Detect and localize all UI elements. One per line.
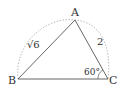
vertex-a-label: A [70, 6, 80, 19]
side-ab-label: √6 [27, 39, 40, 50]
vertex-c-label: C [109, 74, 117, 87]
side-ac-label: 2 [97, 36, 103, 47]
angle-c-label: 60° [84, 67, 100, 77]
vertex-b-label: B [8, 74, 16, 87]
triangle-diagram: A B C √6 2 60° [0, 0, 126, 95]
